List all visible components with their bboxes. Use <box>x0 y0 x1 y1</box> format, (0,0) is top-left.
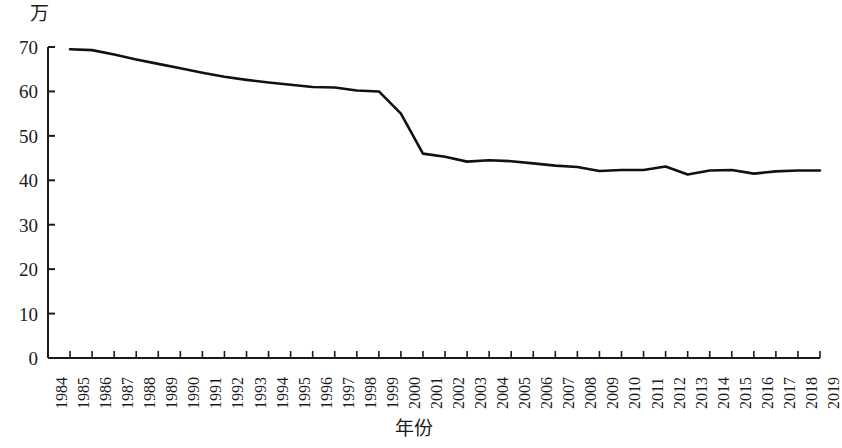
x-axis-tick-label: 2010 <box>627 377 643 409</box>
y-axis-tick-label: 50 <box>2 127 38 146</box>
x-axis-tick-label: 2007 <box>561 377 577 409</box>
x-axis-tick-label: 1989 <box>164 377 180 409</box>
x-axis-tick-label: 1995 <box>297 377 313 409</box>
y-axis-tick-label: 20 <box>2 260 38 279</box>
x-axis-tick-label: 1996 <box>319 377 335 409</box>
x-axis-tick-label: 2002 <box>451 377 467 409</box>
x-axis-tick-label: 1999 <box>385 377 401 409</box>
x-axis-tick-label: 1988 <box>142 377 158 409</box>
y-axis-tick-label: 10 <box>2 305 38 324</box>
x-axis-tick-label: 2001 <box>429 377 445 409</box>
data-series-group <box>70 49 820 174</box>
y-axis-ticks <box>48 47 55 314</box>
x-axis-tick-label: 2012 <box>672 377 688 409</box>
x-axis-tick-label: 2003 <box>473 377 489 409</box>
x-axis-tick-label: 2000 <box>407 377 423 409</box>
x-axis-tick-label: 1997 <box>341 377 357 409</box>
x-axis-ticks <box>48 351 820 358</box>
data-line <box>70 49 820 174</box>
x-axis-tick-label: 1986 <box>98 377 114 409</box>
x-axis-title: 年份 <box>0 419 827 438</box>
y-axis-tick-label: 30 <box>2 216 38 235</box>
x-axis-tick-label: 1998 <box>363 377 379 409</box>
x-axis-tick-label: 2014 <box>716 377 732 409</box>
x-axis-tick-label: 1990 <box>186 377 202 409</box>
y-axis-tick-label: 40 <box>2 171 38 190</box>
x-axis-tick-label: 2004 <box>495 377 511 409</box>
y-axis-tick-label: 70 <box>2 38 38 57</box>
x-axis-tick-label: 2011 <box>650 378 666 409</box>
x-axis-tick-label: 2018 <box>804 377 820 409</box>
x-axis-tick-label: 1985 <box>76 377 92 409</box>
y-axis-tick-label: 0 <box>2 349 38 368</box>
y-axis-tick-label: 60 <box>2 82 38 101</box>
x-axis-tick-label: 2015 <box>738 377 754 409</box>
x-axis-tick-label: 1992 <box>230 377 246 409</box>
x-axis-tick-label: 1993 <box>253 377 269 409</box>
x-axis-tick-label: 1987 <box>120 377 136 409</box>
x-axis-tick-label: 2008 <box>583 377 599 409</box>
x-axis-tick-label: 2009 <box>605 377 621 409</box>
x-axis-tick-label: 1994 <box>275 377 291 409</box>
x-axis-tick-label: 2017 <box>782 377 798 409</box>
axes-group <box>48 47 820 358</box>
x-axis-tick-label: 2016 <box>760 377 776 409</box>
x-axis-tick-label: 2019 <box>826 377 842 409</box>
x-axis-tick-label: 1991 <box>208 377 224 409</box>
x-axis-tick-label: 2013 <box>694 377 710 409</box>
x-axis-tick-label: 1984 <box>54 377 70 409</box>
x-axis-tick-label: 2006 <box>539 377 555 409</box>
x-axis-tick-label: 2005 <box>517 377 533 409</box>
